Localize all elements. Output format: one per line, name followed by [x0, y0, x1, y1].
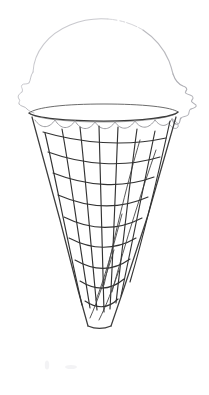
- paper-background: [0, 0, 209, 395]
- smudge-mark: [45, 361, 49, 370]
- drawing-canvas: Ice Cream Cone Line Drawing: [0, 0, 209, 395]
- ice-cream-cone-drawing: [0, 0, 209, 395]
- smudge-mark: [65, 365, 77, 369]
